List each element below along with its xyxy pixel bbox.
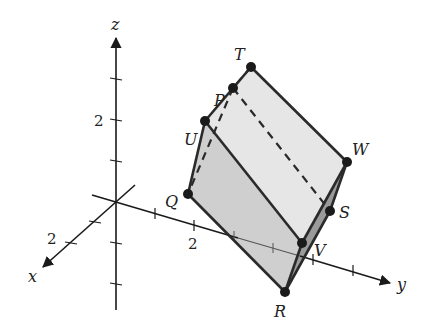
vertex-W-dot [342,157,352,167]
vertex-V-label: V [314,241,327,260]
vertex-R-label: R [273,302,286,321]
vertex-T-dot [246,62,256,72]
vertex-U-label: U [184,130,198,149]
z-axis-label: z [110,15,120,34]
vertex-U-dot [200,116,210,126]
x-axis-label: x [28,267,37,286]
vertex-P-dot [228,83,238,93]
x-axis-line [43,185,135,267]
vertex-Q-label: Q [165,192,178,211]
vertex-S-dot [325,206,335,216]
z-tick-label: 2 [94,112,104,130]
vertex-R-dot [280,287,290,297]
vertex-P-label: P [213,91,225,110]
vertex-S-label: S [339,203,350,222]
vertex-Q-dot [183,189,193,199]
z-axis: z 2 [94,15,122,310]
vertex-V-dot [297,238,307,248]
y-axis-label: y [396,275,407,294]
vertex-T-label: T [234,45,246,64]
x-tick-label: 2 [47,230,57,248]
vertex-W-label: W [352,140,370,159]
x-axis: 2 x [28,185,135,286]
diagram-canvas: z 2 2 x 2 y [0,0,427,333]
y-tick-label: 2 [188,235,198,253]
